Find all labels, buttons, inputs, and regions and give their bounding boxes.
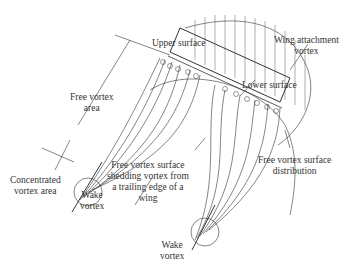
label-free-vortex-area: Free vortex area (70, 92, 114, 114)
label-concentrated-vortex-area: Concentrated vortex area (10, 175, 61, 197)
label-wake-vortex-bottom: Wake vortex (160, 240, 184, 262)
label-upper-surface: Upper surface (152, 38, 206, 49)
label-free-vortex-distribution: Free vortex surface distribution (258, 155, 331, 177)
label-free-vortex-shedding: Free vortex surface shedding vortex from… (107, 160, 189, 204)
label-wing-attachment-vortex: Wing attachment vortex (274, 35, 339, 57)
label-lower-surface: Lower surface (242, 80, 297, 91)
label-wake-vortex-left: Wake vortex (80, 190, 104, 212)
hatching (195, 15, 305, 110)
